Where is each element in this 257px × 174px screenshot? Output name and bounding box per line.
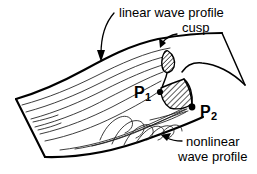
nonlinear-wave-profile-label-line2: wave profile [177, 149, 247, 164]
cusp-label: cusp [182, 20, 209, 35]
linear-leader-line [101, 13, 114, 54]
cusp-region [161, 51, 192, 109]
nonlinear-leader-line [167, 138, 182, 141]
p2-marker [189, 104, 196, 111]
nonlinear-wave-profile-label-line1: nonlinear [186, 134, 240, 149]
linear-wave-profile-label: linear wave profile [119, 5, 224, 20]
p1-marker [157, 89, 163, 95]
cusp-tip-hatched-lobe [162, 51, 175, 73]
right-fold-edge [182, 63, 245, 85]
leader-lines [97, 13, 182, 141]
diagram-canvas: linear wave profile cusp nonlinear wave … [0, 0, 257, 174]
p2-subscript: 2 [211, 110, 217, 122]
p1-label: P 1 [134, 84, 151, 103]
p2-label: P 2 [200, 103, 217, 122]
right-edge [222, 33, 245, 85]
p1-letter: P [134, 84, 145, 101]
wave-profile-diagram: linear wave profile cusp nonlinear wave … [0, 0, 257, 174]
p1-subscript: 1 [145, 91, 151, 103]
p2-letter: P [200, 103, 211, 120]
